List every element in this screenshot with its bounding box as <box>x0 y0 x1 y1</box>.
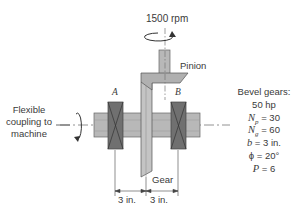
coupling-rotation-arrow-icon <box>74 113 81 142</box>
rotation-arrow-icon <box>144 31 176 41</box>
specs-power: 50 hp <box>234 99 294 112</box>
specs-ng: Ng = 60 <box>234 124 294 137</box>
specs-phi: ϕ = 20° <box>234 150 294 163</box>
gear-specs: Bevel gears: 50 hp Np = 30 Ng = 60 b = 3… <box>234 86 294 176</box>
bearing-a-label: A <box>112 88 118 98</box>
bearing-b <box>171 102 186 149</box>
gear <box>141 82 152 177</box>
coupling-label-line: machine <box>4 128 54 140</box>
specs-np: Np = 30 <box>234 112 294 125</box>
speed-label: 1500 rpm <box>146 14 188 24</box>
dimension-left: 3 in. <box>118 195 136 205</box>
specs-p: P = 6 <box>234 163 294 176</box>
specs-title: Bevel gears: <box>234 86 294 99</box>
gear-label: Gear <box>152 175 173 185</box>
pinion-shaft <box>159 50 170 74</box>
bearing-b-label: B <box>175 88 181 98</box>
pinion-label: Pinion <box>180 61 206 71</box>
coupling-label: Flexible coupling to machine <box>4 104 54 140</box>
coupling-label-line: Flexible <box>4 104 54 116</box>
dimension-right: 3 in. <box>150 195 168 205</box>
bearing-a <box>108 102 123 149</box>
coupling-label-line: coupling to <box>4 116 54 128</box>
specs-b: b = 3 in. <box>234 137 294 150</box>
